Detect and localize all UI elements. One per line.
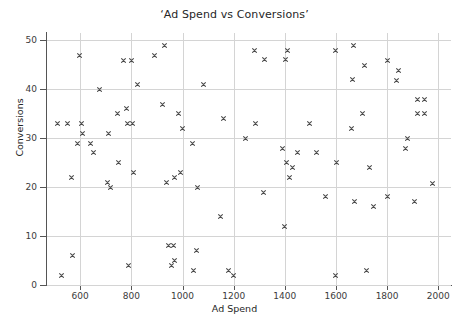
x-tick-mark: [80, 286, 81, 290]
scatter-point: [367, 165, 372, 170]
scatter-point: [253, 121, 258, 126]
scatter-point: [116, 160, 121, 165]
scatter-point: [262, 57, 267, 62]
scatter-point: [349, 126, 354, 131]
scatter-point: [160, 102, 165, 107]
y-tick-label: 50: [5, 35, 37, 45]
scatter-point: [323, 194, 328, 199]
y-tick-mark: [40, 236, 46, 237]
scatter-point: [364, 268, 369, 273]
gridline-vertical: [336, 33, 337, 285]
scatter-point: [152, 53, 157, 58]
gridline-horizontal: [47, 285, 451, 286]
x-tick-label: 1600: [324, 291, 347, 301]
scatter-point: [352, 199, 357, 204]
gridline-horizontal: [47, 40, 451, 41]
scatter-point: [164, 180, 169, 185]
chart-figure: ‘Ad Spend vs Conversions’ 01020304050 60…: [0, 0, 469, 320]
scatter-point: [415, 97, 420, 102]
scatter-point: [91, 150, 96, 155]
scatter-point: [412, 199, 417, 204]
x-tick-mark: [387, 286, 388, 290]
y-tick-mark: [40, 40, 46, 41]
x-tick-mark: [234, 286, 235, 290]
scatter-point: [371, 204, 376, 209]
scatter-point: [415, 111, 420, 116]
scatter-point: [176, 111, 181, 116]
scatter-point: [169, 263, 174, 268]
scatter-point: [261, 190, 266, 195]
x-tick-mark: [183, 286, 184, 290]
x-axis-title: Ad Spend: [0, 303, 469, 314]
scatter-point: [88, 141, 93, 146]
scatter-point: [314, 150, 319, 155]
scatter-point: [307, 121, 312, 126]
gridline-vertical: [285, 33, 286, 285]
scatter-point: [135, 82, 140, 87]
y-tick-label: 0: [5, 280, 37, 290]
scatter-point: [422, 111, 427, 116]
scatter-point: [191, 268, 196, 273]
scatter-point: [350, 77, 355, 82]
scatter-point: [252, 48, 257, 53]
scatter-point: [105, 180, 110, 185]
y-axis-title: Conversions: [14, 83, 25, 173]
y-tick-mark: [40, 138, 46, 139]
gridline-vertical: [234, 33, 235, 285]
scatter-point: [360, 111, 365, 116]
y-tick-mark: [40, 187, 46, 188]
y-tick-mark: [40, 89, 46, 90]
scatter-point: [351, 43, 356, 48]
scatter-point: [226, 268, 231, 273]
scatter-plot-area: [47, 33, 451, 285]
scatter-point: [125, 121, 130, 126]
scatter-point: [115, 111, 120, 116]
scatter-point: [285, 48, 290, 53]
scatter-point: [55, 121, 60, 126]
x-tick-mark: [131, 286, 132, 290]
gridline-vertical: [131, 33, 132, 285]
gridline-vertical: [80, 33, 81, 285]
scatter-point: [162, 43, 167, 48]
x-tick-label: 1000: [171, 291, 194, 301]
scatter-point: [396, 68, 401, 73]
scatter-point: [172, 175, 177, 180]
scatter-point: [70, 253, 75, 258]
scatter-point: [430, 181, 435, 186]
scatter-point: [362, 63, 367, 68]
scatter-point: [194, 248, 199, 253]
gridline-vertical: [438, 33, 439, 285]
gridline-horizontal: [47, 236, 451, 237]
scatter-point: [190, 141, 195, 146]
scatter-point: [65, 121, 70, 126]
y-tick-mark: [40, 285, 46, 286]
scatter-point: [201, 82, 206, 87]
scatter-point: [221, 116, 226, 121]
scatter-point: [394, 78, 399, 83]
scatter-point: [287, 175, 292, 180]
x-tick-mark: [285, 286, 286, 290]
scatter-point: [218, 214, 223, 219]
gridline-vertical: [387, 33, 388, 285]
scatter-point: [69, 175, 74, 180]
x-tick-label: 1200: [222, 291, 245, 301]
y-tick-label: 20: [5, 182, 37, 192]
x-tick-label: 1400: [273, 291, 296, 301]
chart-title: ‘Ad Spend vs Conversions’: [0, 8, 469, 21]
gridline-horizontal: [47, 138, 451, 139]
scatter-point: [59, 273, 64, 278]
x-tick-label: 2000: [427, 291, 450, 301]
scatter-point: [124, 106, 129, 111]
scatter-point: [172, 258, 177, 263]
scatter-point: [171, 243, 176, 248]
scatter-point: [106, 131, 111, 136]
scatter-point: [403, 146, 408, 151]
scatter-point: [422, 97, 427, 102]
scatter-point: [166, 243, 171, 248]
x-tick-label: 800: [123, 291, 140, 301]
y-tick-label: 10: [5, 231, 37, 241]
gridline-horizontal: [47, 89, 451, 90]
scatter-point: [121, 58, 126, 63]
scatter-point: [290, 165, 295, 170]
x-tick-mark: [438, 286, 439, 290]
